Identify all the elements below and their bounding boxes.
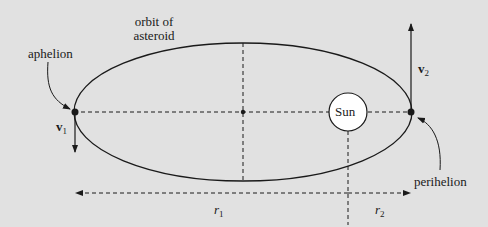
- v2-subscript: 2: [425, 68, 430, 78]
- v1-label: v1: [56, 120, 67, 138]
- orbit-diagram: orbit of asteroid aphelion perihelion Su…: [0, 0, 488, 227]
- orbit-label-line2: asteroid: [128, 29, 180, 43]
- orbit-label: orbit of asteroid: [128, 15, 180, 43]
- aphelion-pointer: [48, 62, 70, 109]
- perihelion-label: perihelion: [414, 175, 467, 189]
- v1-subscript: 1: [63, 126, 68, 136]
- diagram-graphics: [0, 0, 488, 227]
- v2-label: v2: [418, 62, 429, 80]
- orbit-label-line1: orbit of: [128, 15, 180, 29]
- r1-subscript: 1: [219, 209, 224, 219]
- r2-subscript: 2: [380, 209, 385, 219]
- r1-label: r1: [214, 203, 224, 221]
- center-dot: [241, 110, 245, 114]
- r2-label: r2: [375, 203, 385, 221]
- perihelion-pointer: [418, 118, 440, 170]
- aphelion-label: aphelion: [28, 47, 73, 61]
- sun-label: Sun: [335, 105, 355, 119]
